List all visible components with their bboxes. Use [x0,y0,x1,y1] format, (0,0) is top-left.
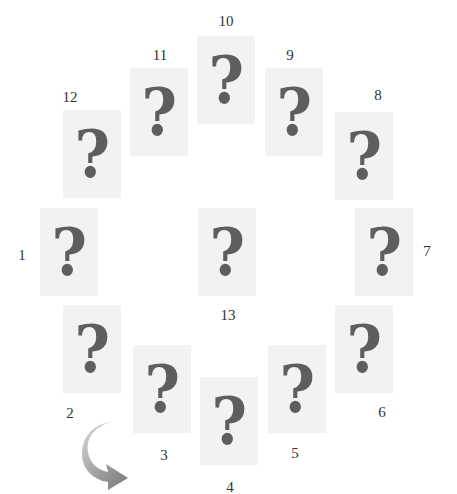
card-8: ? [335,112,393,200]
card-number-label: 3 [160,448,168,463]
question-mark-icon: ? [51,219,87,285]
question-mark-icon: ? [276,79,312,145]
card-3: ? [133,345,191,433]
card-number-label: 8 [374,88,382,103]
question-mark-icon: ? [346,316,382,382]
question-mark-icon: ? [74,316,110,382]
card-number-label: 9 [286,48,294,63]
card-number-label: 2 [66,406,74,421]
question-mark-icon: ? [346,123,382,189]
card-circle-diagram: ????????????? 12345678910111213 [0,0,457,494]
question-mark-icon: ? [211,388,247,454]
question-mark-icon: ? [366,219,402,285]
card-7: ? [355,208,413,296]
question-mark-icon: ? [279,356,315,422]
question-mark-icon: ? [74,121,110,187]
card-1: ? [40,208,98,296]
card-number-label: 6 [378,405,386,420]
card-5: ? [268,345,326,433]
card-10: ? [197,36,255,124]
card-number-label: 13 [221,308,236,323]
question-mark-icon: ? [141,79,177,145]
card-number-label: 5 [291,446,299,461]
question-mark-icon: ? [209,219,245,285]
card-6: ? [335,305,393,393]
card-number-label: 10 [219,14,234,29]
question-mark-icon: ? [144,356,180,422]
card-11: ? [130,68,188,156]
card-number-label: 12 [63,90,78,105]
card-12: ? [63,110,121,198]
card-number-label: 1 [18,248,26,263]
card-number-label: 11 [153,48,167,63]
card-2: ? [63,305,121,393]
card-9: ? [265,68,323,156]
card-number-label: 7 [423,244,431,259]
question-mark-icon: ? [208,47,244,113]
card-4: ? [200,377,258,465]
card-number-label: 4 [226,480,234,494]
curved-arrow-clockwise-icon [82,420,132,492]
card-13: ? [198,208,256,296]
